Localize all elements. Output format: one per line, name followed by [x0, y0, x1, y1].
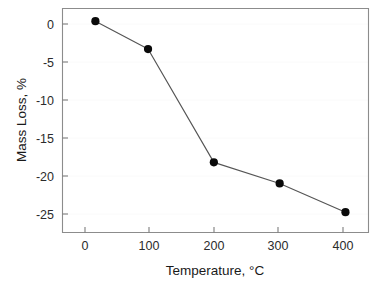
y-tick-label-neg10: -10	[36, 94, 54, 108]
data-point-marker	[144, 45, 152, 53]
x-tick-label-0: 0	[82, 239, 89, 253]
figure-background	[0, 0, 378, 287]
x-tick-label-100: 100	[139, 239, 160, 253]
x-tick-label-300: 300	[268, 239, 289, 253]
x-tick-label-400: 400	[333, 239, 354, 253]
chart-figure: 0 -5 -10 -15 -20 -25 0 100 200 300 400 T…	[0, 0, 378, 287]
data-point-marker	[210, 158, 218, 166]
y-tick-label-neg5: -5	[43, 56, 54, 70]
x-tick-label-200: 200	[204, 239, 225, 253]
y-axis-title: Mass Loss, %	[14, 78, 29, 162]
data-point-marker	[276, 179, 284, 187]
y-tick-label-neg20: -20	[36, 170, 54, 184]
y-tick-label-neg15: -15	[36, 132, 54, 146]
data-point-marker	[341, 208, 349, 216]
data-point-marker	[91, 17, 99, 25]
x-axis-title: Temperature, °C	[166, 263, 265, 278]
y-tick-label-neg25: -25	[36, 208, 54, 222]
mass-loss-line-chart: 0 -5 -10 -15 -20 -25 0 100 200 300 400 T…	[0, 0, 378, 287]
y-tick-label-0: 0	[47, 18, 54, 32]
